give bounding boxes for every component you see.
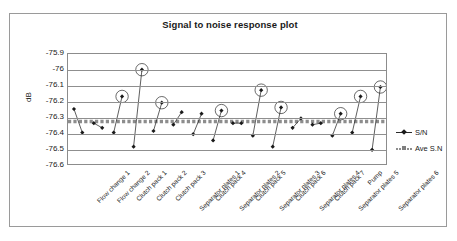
chart-frame: Signal to noise response plot dB -75.9 -…	[9, 13, 447, 227]
y-tick-label: -75.9	[34, 48, 64, 57]
y-tick-label: -76.4	[34, 128, 64, 137]
sn-data-point	[219, 108, 223, 112]
legend-label: Ave S.N	[415, 144, 442, 153]
sn-data-point	[120, 94, 124, 98]
chart-screenshot: Signal to noise response plot dB -75.9 -…	[0, 0, 457, 241]
gridline	[68, 102, 386, 103]
legend-marker-ave-sn-icon	[396, 144, 412, 152]
legend-marker-sn-icon	[396, 128, 412, 136]
sn-data-point	[151, 129, 155, 133]
sn-data-point	[180, 110, 184, 114]
gridline	[68, 118, 386, 119]
sn-data-point	[358, 94, 362, 98]
legend-label: S/N	[415, 128, 428, 137]
sn-data-point	[271, 145, 275, 149]
sn-data-point	[199, 112, 203, 116]
gridline	[68, 150, 386, 151]
sn-connector-line	[134, 70, 142, 147]
legend-item-ave-sn: Ave S.N	[396, 140, 456, 156]
sn-data-point	[131, 145, 135, 149]
chart-title: Signal to noise response plot	[70, 19, 390, 30]
gridline	[68, 70, 386, 71]
sn-data-point	[339, 112, 343, 116]
y-tick-label: -76.1	[34, 80, 64, 89]
sn-data-point	[259, 88, 263, 92]
legend-item-sn: S/N	[396, 124, 456, 140]
chart-legend: S/N Ave S.N	[396, 124, 456, 156]
sn-data-point	[279, 105, 283, 109]
sn-connector-line	[293, 118, 301, 127]
x-tick-label: Separator plates 6	[397, 169, 440, 212]
sn-connector-line	[253, 90, 261, 136]
plot-area	[67, 53, 387, 165]
sn-data-point	[100, 126, 104, 130]
y-tick-label: -76.3	[34, 112, 64, 121]
y-tick-label: -76	[34, 64, 64, 73]
sn-data-point	[72, 107, 76, 111]
gridline	[68, 86, 386, 87]
y-tick-label: -76.6	[34, 160, 64, 169]
sn-connector-line	[193, 114, 201, 134]
sn-data-point	[211, 138, 215, 142]
y-tick-label: -76.2	[34, 96, 64, 105]
y-axis-tick-labels: -75.9 -76 -76.1 -76.2 -76.3 -76.4 -76.5 …	[32, 53, 64, 165]
x-axis-tick-labels: Flow change 1Flow change 2Clutch pack 1C…	[67, 167, 387, 237]
gridline	[68, 134, 386, 135]
sn-connector-line	[332, 114, 340, 136]
y-tick-label: -76.5	[34, 144, 64, 153]
